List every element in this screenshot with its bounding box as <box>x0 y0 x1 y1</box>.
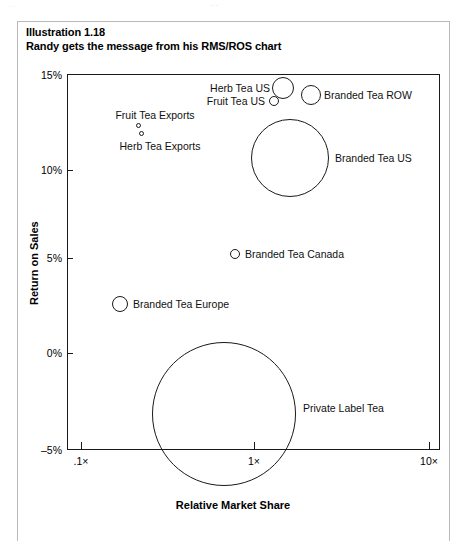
point-label-private-label-tea: Private Label Tea <box>303 402 384 414</box>
x-tick-label-10: 10× <box>420 455 438 467</box>
point-label-branded-tea-us: Branded Tea US <box>335 152 412 164</box>
y-tick-label-15: 15% <box>26 69 62 81</box>
bubble-branded-tea-row[interactable] <box>301 85 321 105</box>
bubble-branded-tea-canada[interactable] <box>230 249 240 259</box>
point-label-fruit-tea-exports: Fruit Tea Exports <box>115 109 194 121</box>
bubble-private-label-tea[interactable] <box>152 342 296 486</box>
x-tick-label-0.1: .1× <box>74 455 89 467</box>
scan-artifact-left: ... <box>8 1 17 8</box>
point-label-herb-tea-us: Herb Tea US <box>210 82 270 94</box>
y-tick-label-10: 10% <box>26 164 62 176</box>
y-tick-label-neg5: –5% <box>26 444 62 456</box>
illustration-title-block: Illustration 1.18 Randy gets the message… <box>26 25 281 53</box>
point-label-branded-tea-row: Branded Tea ROW <box>324 89 412 101</box>
point-label-fruit-tea-us: Fruit Tea US <box>207 95 265 107</box>
y-tick-mark-10 <box>67 170 73 171</box>
point-label-branded-tea-europe: Branded Tea Europe <box>133 298 229 310</box>
bubble-branded-tea-europe[interactable] <box>112 296 128 312</box>
illustration-caption: Randy gets the message from his RMS/ROS … <box>26 39 281 53</box>
bubble-branded-tea-us[interactable] <box>251 119 329 197</box>
scan-artifact-right: ... <box>210 0 219 7</box>
bubble-fruit-tea-us[interactable] <box>269 96 279 106</box>
bubble-herb-tea-exports[interactable] <box>139 131 144 136</box>
bubble-fruit-tea-exports[interactable] <box>136 123 141 128</box>
y-axis-title: Return on Sales <box>28 221 40 305</box>
x-tick-mark-10 <box>429 442 430 449</box>
y-tick-label-0: 0% <box>26 347 62 359</box>
y-tick-mark-5 <box>67 258 73 259</box>
point-label-branded-tea-canada: Branded Tea Canada <box>245 248 344 260</box>
y-tick-mark-0 <box>67 353 73 354</box>
x-tick-mark-0.1 <box>81 442 82 449</box>
point-label-herb-tea-exports: Herb Tea Exports <box>120 140 201 152</box>
illustration-number: Illustration 1.18 <box>26 25 281 39</box>
x-axis-title: Relative Market Share <box>0 499 466 511</box>
scan-artifact-strip: ... ... <box>0 0 466 14</box>
